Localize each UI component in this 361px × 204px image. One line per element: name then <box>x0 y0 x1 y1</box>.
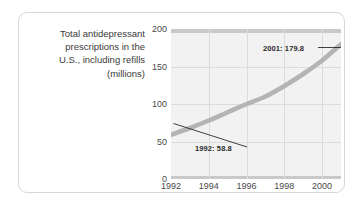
x-tick-2000: 2000 <box>302 182 342 191</box>
caption-line-4: (millions) <box>25 67 145 80</box>
caption-line-2: prescriptions in the <box>25 40 145 53</box>
x-tick-1998: 1998 <box>264 182 304 191</box>
caption-line-3: U.S., including refills <box>25 53 145 66</box>
annotation-2001: 2001: 179.8 <box>263 44 304 53</box>
chart-plot: 050100150200 19921994199619982000 2001: … <box>153 17 341 189</box>
figure-card: Total antidepressant prescriptions in th… <box>18 12 345 193</box>
x-tick-1994: 1994 <box>189 182 229 191</box>
caption-line-1: Total antidepressant <box>25 27 145 40</box>
y-tick-50: 50 <box>137 138 167 147</box>
series-line <box>171 29 341 179</box>
chart-caption: Total antidepressant prescriptions in th… <box>25 27 145 80</box>
x-tick-1996: 1996 <box>227 182 267 191</box>
y-tick-200: 200 <box>137 25 167 34</box>
annotation-1992: 1992: 58.8 <box>195 144 232 153</box>
y-tick-100: 100 <box>137 100 167 109</box>
x-tick-1992: 1992 <box>151 182 191 191</box>
plot-area <box>171 29 341 179</box>
y-tick-150: 150 <box>137 63 167 72</box>
